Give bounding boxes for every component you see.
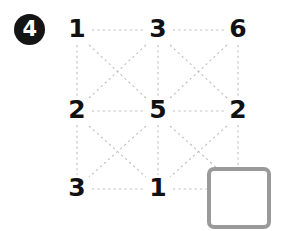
puzzle-page: 4 bbox=[0, 0, 282, 231]
answer-box[interactable] bbox=[207, 167, 271, 229]
grid-cell-r1c1: 5 bbox=[138, 97, 178, 123]
grid-cell-r2c1: 1 bbox=[138, 175, 178, 201]
grid-cell-r0c1: 3 bbox=[138, 16, 178, 42]
grid-cell-r0c0: 1 bbox=[57, 16, 97, 42]
grid-cell-r0c2: 6 bbox=[218, 16, 258, 42]
grid-cell-r1c2: 2 bbox=[218, 97, 258, 123]
grid-cell-r1c0: 2 bbox=[57, 97, 97, 123]
grid-cell-r2c0: 3 bbox=[57, 175, 97, 201]
